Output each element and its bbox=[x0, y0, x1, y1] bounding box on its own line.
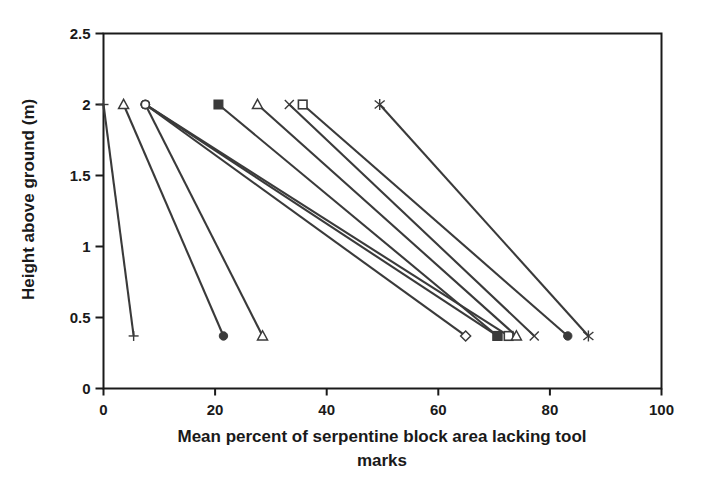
chart-figure: 020406080100 00.511.522.5 Height above g… bbox=[0, 0, 717, 486]
y-tick-label: 0.5 bbox=[70, 309, 91, 326]
open-square-marker bbox=[298, 100, 307, 109]
filled-circle-marker bbox=[564, 332, 572, 340]
x-tick-label: 60 bbox=[430, 401, 447, 418]
filled-square-marker bbox=[214, 100, 223, 109]
svg-text:marks: marks bbox=[357, 451, 407, 470]
x-tick-label: 40 bbox=[318, 401, 335, 418]
x-tick-label: 100 bbox=[649, 401, 674, 418]
y-tick-label: 2.5 bbox=[70, 25, 91, 42]
svg-text:Mean percent of serpentine blo: Mean percent of serpentine block area la… bbox=[177, 427, 586, 446]
x-tick-label: 0 bbox=[99, 401, 107, 418]
y-tick-label: 1.5 bbox=[70, 167, 91, 184]
x-tick-label: 20 bbox=[207, 401, 224, 418]
y-axis-title: Height above ground (m) bbox=[19, 99, 38, 300]
y-tick-label: 2 bbox=[82, 96, 90, 113]
filled-circle-marker bbox=[219, 332, 227, 340]
x-tick-label: 80 bbox=[542, 401, 559, 418]
y-tick-label: 0 bbox=[82, 380, 90, 397]
y-tick-label: 1 bbox=[82, 238, 90, 255]
open-circle-marker bbox=[141, 101, 149, 109]
filled-square-marker bbox=[493, 331, 502, 340]
